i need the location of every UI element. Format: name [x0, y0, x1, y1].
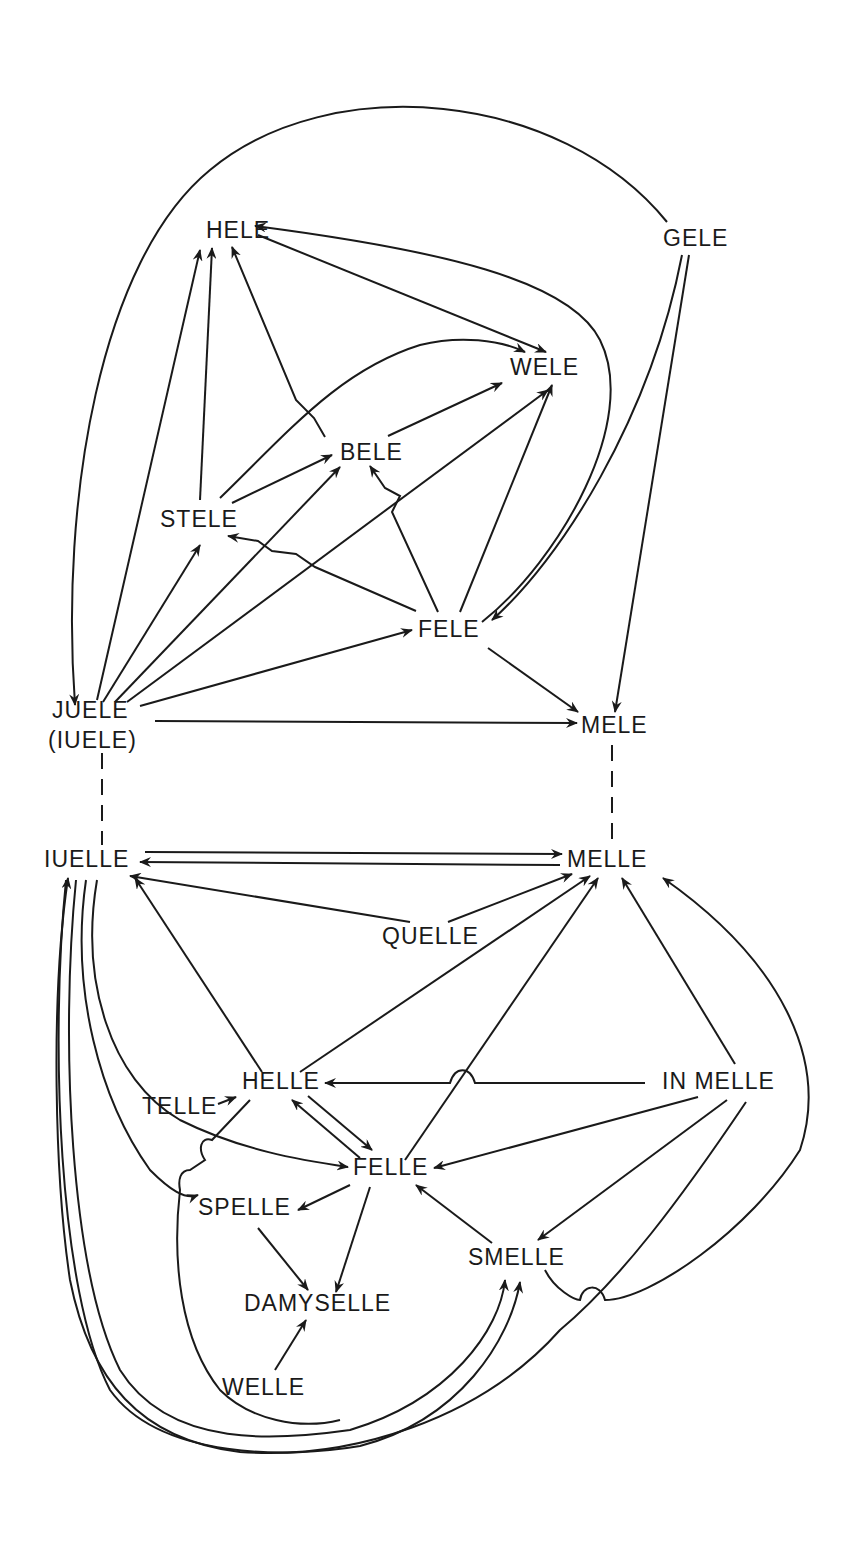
edge-inmelle-helle	[325, 1070, 645, 1083]
edge-felle-melle	[405, 878, 598, 1160]
node-wele: WELE	[510, 354, 579, 380]
edge-melle-iuelle	[140, 862, 560, 865]
edge-helle-melle	[300, 876, 590, 1072]
word-derivation-diagram: HELE GELE WELE BELE STELE FELE JUELE (IU…	[0, 0, 845, 1551]
edge-quelle-melle	[448, 874, 572, 922]
edge-telle-helle	[218, 1097, 236, 1104]
edge-fele-wele	[460, 385, 552, 612]
edge-gele-juele	[72, 107, 667, 705]
edge-iuelle-spelle	[82, 880, 198, 1196]
edge-hele-wele	[258, 235, 546, 352]
edge-juele-stele	[103, 545, 200, 702]
edge-iuelle-melle	[145, 852, 562, 854]
node-hele: HELE	[206, 217, 270, 243]
edge-spelle-damyselle	[258, 1228, 308, 1290]
edge-bele-wele	[388, 383, 502, 436]
edge-felle-spelle	[298, 1185, 350, 1210]
edge-stele-bele	[232, 455, 332, 503]
nodes: HELE GELE WELE BELE STELE FELE JUELE (IU…	[44, 217, 775, 1400]
node-spelle: SPELLE	[198, 1194, 291, 1220]
edge-smelle-felle	[416, 1185, 492, 1243]
node-juele: JUELE	[52, 697, 129, 723]
node-telle: TELLE	[142, 1093, 217, 1119]
edge-helle-iuelle	[135, 878, 262, 1072]
node-bele: BELE	[340, 439, 403, 465]
edge-gele-mele	[615, 255, 689, 712]
edge-fele-bele	[370, 466, 438, 612]
node-melle: MELLE	[567, 846, 647, 872]
edge-iuelle-smelle-1	[69, 880, 505, 1437]
edge-juele-wele	[127, 390, 548, 702]
edge-juele-fele	[140, 630, 412, 706]
edge-bele-hele	[232, 247, 325, 437]
node-fele: FELE	[418, 616, 480, 642]
node-iuelle: IUELLE	[44, 846, 129, 872]
node-juele-alt: (IUELE)	[48, 727, 137, 753]
edge-felle-damyselle	[336, 1187, 370, 1292]
edge-stele-hele	[200, 248, 212, 500]
edge-fele-stele	[228, 536, 416, 611]
edge-inmelle-felle	[434, 1097, 698, 1168]
node-mele: MELE	[581, 712, 648, 738]
edge-gele-fele	[492, 255, 682, 620]
edge-felle-helle	[292, 1100, 360, 1158]
node-smelle: SMELLE	[468, 1244, 565, 1270]
edges	[56, 107, 808, 1453]
edge-juele-bele	[115, 467, 340, 702]
edge-iuelle-felle	[92, 880, 348, 1167]
edge-welle-damyselle	[275, 1320, 306, 1370]
node-damyselle: DAMYSELLE	[244, 1290, 391, 1316]
edge-stele-wele	[220, 340, 525, 498]
node-in-melle: IN MELLE	[662, 1068, 775, 1094]
node-felle: FELLE	[353, 1154, 428, 1180]
edge-juele-mele	[155, 721, 577, 723]
edge-iuelle-smelle-2	[59, 880, 520, 1452]
node-quelle: QUELLE	[382, 923, 479, 949]
edge-juele-hele	[97, 250, 200, 700]
node-helle: HELLE	[242, 1068, 320, 1094]
node-gele: GELE	[663, 225, 728, 251]
edge-inmelle-melle	[622, 878, 735, 1064]
node-welle: WELLE	[222, 1374, 305, 1400]
edge-quelle-iuelle	[130, 876, 410, 922]
node-stele: STELE	[160, 506, 238, 532]
edge-fele-mele	[488, 648, 578, 712]
